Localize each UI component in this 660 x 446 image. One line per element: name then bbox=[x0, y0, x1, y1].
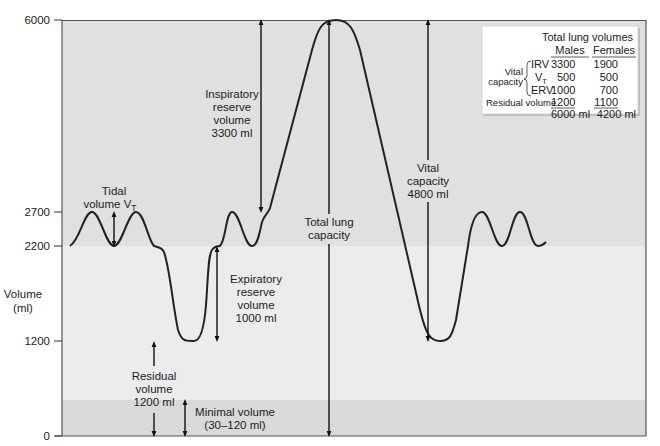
minimal-label-line1: Minimal volume bbox=[195, 406, 275, 418]
rv-label-line1: Residual bbox=[132, 370, 177, 382]
tlc-label-line2: capacity bbox=[308, 229, 350, 241]
y-tick-1200: 1200 bbox=[24, 335, 50, 347]
vc-label-line2: capacity bbox=[407, 175, 449, 187]
vc-label-line1: Vital bbox=[417, 162, 439, 174]
y-tick-2200: 2200 bbox=[24, 240, 50, 252]
table-row-erv-males: 1000 bbox=[551, 84, 575, 96]
table-row-irv-females: 1900 bbox=[594, 58, 618, 70]
table-row-rv-males: 1200 bbox=[551, 96, 575, 108]
table-row-irv-label: IRV bbox=[531, 58, 550, 70]
table-total-females: 4200 ml bbox=[597, 108, 636, 120]
irv-label-line4: 3300 ml bbox=[212, 127, 253, 139]
table-row-vt-females: 500 bbox=[600, 71, 618, 83]
table-title: Total lung volumes bbox=[542, 31, 634, 43]
lung-volume-diagram: 6000 2700 2200 1200 0 Volume (ml) Tidal … bbox=[0, 0, 660, 446]
table-col-females: Females bbox=[593, 44, 636, 56]
y-tick-0: 0 bbox=[44, 430, 50, 442]
table-row-rv-females: 1100 bbox=[594, 96, 618, 108]
erv-label-line4: 1000 ml bbox=[236, 312, 277, 324]
table-col-males: Males bbox=[555, 44, 585, 56]
y-axis: 6000 2700 2200 1200 0 Volume (ml) bbox=[4, 14, 62, 442]
table-row-rv-label: Residual volume bbox=[486, 97, 556, 108]
rv-label-line2: volume bbox=[135, 383, 172, 395]
y-axis-label: Volume bbox=[4, 288, 42, 300]
table-group-label-2: capacity bbox=[488, 76, 523, 87]
vc-label-line3: 4800 ml bbox=[408, 188, 449, 200]
irv-label-line2: reserve bbox=[213, 101, 251, 113]
table-total-males: 6000 ml bbox=[551, 108, 590, 120]
minimal-label-line2: (30–120 ml) bbox=[204, 419, 266, 431]
rv-label-line3: 1200 ml bbox=[134, 396, 175, 408]
table-row-vt-males: 500 bbox=[557, 71, 575, 83]
erv-label-line1: Expiratory bbox=[230, 273, 282, 285]
lung-volumes-table: Total lung volumes Males Females Vital c… bbox=[482, 26, 640, 120]
tidal-label-line1: Tidal bbox=[102, 185, 127, 197]
erv-label-line3: volume bbox=[237, 299, 274, 311]
y-axis-label-unit: (ml) bbox=[13, 302, 33, 314]
erv-label-line2: reserve bbox=[237, 286, 275, 298]
tlc-label-line1: Total lung bbox=[304, 216, 353, 228]
table-row-erv-females: 700 bbox=[600, 84, 618, 96]
irv-label-line3: volume bbox=[213, 114, 250, 126]
y-tick-6000: 6000 bbox=[24, 14, 50, 26]
irv-label-line1: Inspiratory bbox=[205, 88, 259, 100]
table-row-irv-males: 3300 bbox=[551, 58, 575, 70]
y-tick-2700: 2700 bbox=[24, 206, 50, 218]
